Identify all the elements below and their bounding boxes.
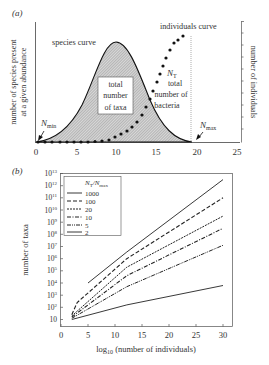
svg-text:102: 102: [47, 303, 58, 312]
svg-text:103: 103: [47, 291, 58, 300]
svg-text:25: 25: [192, 330, 201, 340]
panel-a: (a) number of species present at a given…: [9, 8, 258, 157]
panel-b-xticks-marks: [61, 324, 223, 327]
svg-text:100: 100: [85, 198, 96, 206]
svg-text:total: total: [168, 79, 183, 88]
svg-text:1011: 1011: [45, 193, 58, 202]
nmin-arrowhead: [38, 135, 43, 141]
svg-text:30: 30: [219, 330, 228, 340]
svg-text:5: 5: [75, 147, 80, 157]
svg-text:10: 10: [112, 147, 122, 157]
svg-text:bacteria: bacteria: [154, 101, 180, 110]
panel-a-ylabel-left-line2: at a given abundance: [19, 47, 28, 116]
panel-b-label: (b): [12, 166, 23, 176]
svg-text:number of: number of: [154, 90, 187, 99]
panel-b-legend: NT/Nmax 1000 100 20 10 5 2: [64, 177, 121, 237]
panel-a-ylabel-right: number of individuals: [249, 46, 258, 118]
panel-a-label: (a): [12, 8, 23, 18]
nmin-label: Nmin: [40, 118, 56, 129]
svg-text:15: 15: [152, 147, 162, 157]
panel-a-right-ticks: [242, 22, 245, 130]
panel-b-ylabel: number of taxa: [20, 224, 30, 276]
svg-text:107: 107: [47, 242, 58, 251]
nt-label: NT: [166, 68, 177, 79]
svg-text:20: 20: [193, 147, 203, 157]
svg-text:10: 10: [111, 330, 120, 340]
svg-text:25: 25: [233, 147, 243, 157]
panel-a-xticks: 0 5 10 15 20 25: [34, 147, 242, 157]
figure: (a) number of species present at a given…: [0, 0, 269, 365]
panel-b-yticks-marks: [61, 174, 64, 320]
svg-text:0: 0: [34, 147, 39, 157]
panel-b-xticks: 0 5 10 15 20 25 30: [59, 330, 227, 340]
svg-text:0: 0: [59, 330, 63, 340]
svg-text:total: total: [108, 80, 123, 89]
total-bacteria-label: total number of bacteria: [154, 79, 188, 110]
svg-text:106: 106: [47, 254, 58, 263]
svg-text:20: 20: [85, 206, 93, 214]
svg-text:15: 15: [138, 330, 147, 340]
series-10: [72, 228, 223, 317]
svg-text:1013: 1013: [45, 169, 58, 178]
panel-a-ylabel-left-line1: number of species present: [9, 39, 18, 125]
panel-b-xlabel: log10 (number of individuals): [96, 344, 196, 355]
svg-text:of taxa: of taxa: [105, 103, 127, 112]
svg-text:105: 105: [47, 266, 58, 275]
nmax-label: Nmax: [199, 120, 216, 131]
svg-text:2: 2: [85, 229, 89, 237]
svg-text:104: 104: [47, 279, 58, 288]
svg-text:1010: 1010: [45, 206, 58, 215]
panel-b-yticks: 1013 1012 1011 1010 109 108 107 106 105 …: [45, 169, 58, 324]
svg-text:20: 20: [165, 330, 174, 340]
svg-text:10: 10: [50, 315, 58, 324]
species-curve-label: species curve: [52, 38, 96, 47]
svg-text:10: 10: [85, 214, 93, 222]
panel-b: (b) number of taxa 1013 1012 1011 1010 1…: [12, 166, 233, 355]
svg-text:number: number: [103, 91, 128, 100]
individuals-curve-label: individuals curve: [160, 22, 217, 31]
svg-text:108: 108: [47, 230, 58, 239]
series-2: [72, 286, 223, 320]
svg-text:5: 5: [86, 330, 90, 340]
svg-text:1000: 1000: [85, 190, 100, 198]
svg-text:109: 109: [47, 218, 58, 227]
svg-text:1012: 1012: [45, 181, 58, 190]
